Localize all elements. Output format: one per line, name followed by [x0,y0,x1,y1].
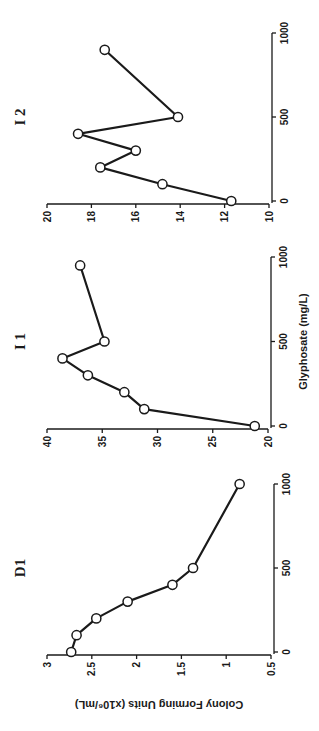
panel-title: I 2 [12,108,28,125]
y-tick-label: 20 [263,436,274,448]
panel-d1: 0.511.522.5305001000D1 [12,472,292,675]
data-point-marker [83,371,92,380]
data-point-marker [250,421,259,430]
x-tick-label: 0 [281,649,292,655]
y-tick-label: 16 [130,211,141,223]
data-point-marker [173,112,182,121]
x-tick-label: 1000 [279,21,290,44]
panel-title: I 1 [12,333,28,350]
figure-svg: 0.511.522.5305001000D1 20253035400500100… [0,0,319,731]
y-tick-label: 14 [175,211,186,223]
data-point-marker [158,180,167,189]
data-point-marker [76,261,85,270]
y-tick-label: 35 [97,436,108,448]
x-tick-label: 500 [279,108,290,125]
data-point-marker [58,354,67,363]
x-tick-label: 1000 [281,472,292,495]
data-point-marker [72,631,81,640]
data-point-marker [131,146,140,155]
y-tick-label: 1.5 [176,662,187,676]
y-tick-label: 0.5 [266,662,277,676]
panel-i2: 10121416182005001000I 2 [12,21,290,222]
y-tick-label: 2.5 [86,662,97,676]
data-point-marker [100,45,109,54]
data-point-marker [188,563,197,572]
y-tick-label: 30 [152,436,163,448]
data-point-marker [92,614,101,623]
data-point-marker [73,129,82,138]
y-tick-label: 12 [219,211,230,223]
y-tick-label: 40 [42,436,53,448]
x-axis-title: Glyphosate (mg/L) [297,293,309,390]
y-tick-label: 3 [42,662,53,668]
data-point-marker [96,163,105,172]
y-axis-title: Colony Forming Units (x10⁶/mL) [75,699,244,711]
y-tick-label: 2 [131,662,142,668]
data-point-marker [227,196,236,205]
series-line [78,50,231,201]
x-tick-label: 500 [281,559,292,576]
panel-i1: 202530354005001000I 1Glyphosate (mg/L) [12,245,309,447]
x-tick-label: 0 [278,423,289,429]
data-point-marker [140,405,149,414]
y-tick-label: 10 [264,211,275,223]
data-point-marker [120,388,129,397]
panel-title: D1 [12,559,28,577]
y-tick-label: 1 [221,662,232,668]
series-line [71,484,239,652]
y-tick-label: 20 [42,211,53,223]
x-tick-label: 1000 [278,245,289,268]
series-line [63,266,255,427]
x-tick-label: 0 [279,198,290,204]
y-tick-label: 18 [86,211,97,223]
figure-rotated: 0.511.522.5305001000D1 20253035400500100… [0,0,319,731]
x-tick-label: 500 [278,333,289,350]
data-point-marker [168,580,177,589]
y-tick-label: 25 [207,436,218,448]
data-point-marker [123,597,132,606]
data-point-marker [100,337,109,346]
data-point-marker [235,479,244,488]
data-point-marker [67,647,76,656]
